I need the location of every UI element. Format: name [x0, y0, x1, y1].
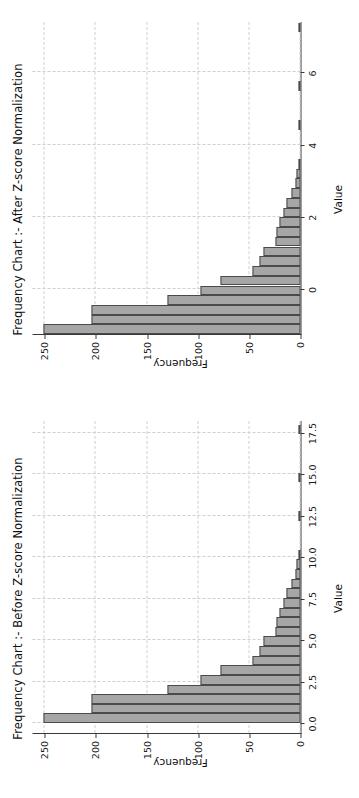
histogram-bar [200, 675, 300, 685]
x-tick-label: 2.5 [306, 675, 317, 690]
histogram-bar [286, 198, 300, 208]
y-tick-mark [300, 335, 301, 339]
bars-before [32, 421, 300, 733]
histogram-bar [43, 324, 300, 334]
y-tick-mark [249, 734, 250, 738]
x-tick-label: 7.5 [306, 592, 317, 607]
x-tick-mark [300, 474, 304, 475]
y-tick-label: 0 [295, 342, 306, 399]
histogram-bar [279, 217, 300, 227]
figure-canvas: Frequency Chart :- Before Z-score Normal… [0, 0, 359, 798]
y-tick-mark [95, 335, 96, 339]
histogram-bar [220, 665, 300, 675]
chart-panel-before: Frequency Chart :- Before Z-score Normal… [0, 399, 359, 798]
x-tick-mark [300, 145, 304, 146]
x-tick-mark [300, 516, 304, 517]
histogram-bar [296, 559, 300, 569]
y-tick-label: 150 [141, 741, 152, 798]
x-tick-label: 10.0 [306, 548, 317, 569]
chart-title-after: Frequency Chart :- After Z-score Normali… [10, 0, 24, 399]
y-tick-mark [249, 335, 250, 339]
y-tick-label: 100 [192, 342, 203, 399]
y-tick-label: 100 [192, 741, 203, 798]
histogram-bar [283, 208, 300, 218]
histogram-bar [220, 276, 300, 286]
histogram-bar [298, 81, 300, 91]
x-tick-mark [300, 289, 304, 290]
histogram-bar [286, 588, 300, 598]
chart-title-before: Frequency Chart :- Before Z-score Normal… [10, 399, 24, 798]
y-tick-mark [198, 335, 199, 339]
x-tick-label: 4 [306, 143, 317, 149]
x-tick-mark [300, 217, 304, 218]
x-tick-mark [300, 640, 304, 641]
histogram-bar [91, 704, 300, 714]
histogram-bar [91, 315, 300, 325]
bars-after [32, 22, 300, 334]
histogram-bar [252, 266, 300, 276]
histogram-bar [263, 247, 300, 257]
x-tick-label: 12.5 [306, 506, 317, 527]
histogram-bar [279, 608, 300, 618]
x-tick-label: 6 [306, 70, 317, 76]
histogram-bar [296, 169, 300, 179]
histogram-bar [283, 598, 300, 608]
histogram-bar [295, 178, 300, 188]
histogram-bar [43, 713, 300, 723]
x-tick-mark [300, 433, 304, 434]
histogram-bar [298, 159, 300, 169]
x-tick-label: 0.0 [306, 716, 317, 731]
histogram-bar [291, 188, 300, 198]
x-tick-mark [300, 599, 304, 600]
x-tick-mark [300, 723, 304, 724]
histogram-bar [291, 579, 300, 589]
x-tick-label: 15.0 [306, 465, 317, 486]
x-tick-label: 5.0 [306, 634, 317, 649]
x-tick-label: 0 [306, 287, 317, 293]
histogram-bar [275, 627, 300, 637]
y-tick-mark [147, 734, 148, 738]
x-tick-mark [300, 682, 304, 683]
y-tick-label: 50 [243, 342, 254, 399]
histogram-bar [263, 636, 300, 646]
histogram-bar [167, 685, 300, 695]
histogram-bar [200, 286, 300, 296]
x-tick-label: 2 [306, 215, 317, 221]
histogram-bar [91, 694, 300, 704]
histogram-bar [259, 256, 300, 266]
histogram-bar [295, 569, 300, 579]
histogram-bar [276, 617, 300, 627]
y-tick-mark [95, 734, 96, 738]
screenshot-frame: Frequency Chart :- Before Z-score Normal… [0, 0, 359, 798]
chart-panel-after: Frequency Chart :- After Z-score Normali… [0, 0, 359, 399]
histogram-bar [276, 227, 300, 237]
histogram-bar [298, 120, 300, 130]
y-tick-mark [300, 734, 301, 738]
y-axis-title-after: Frequency [152, 358, 206, 370]
x-tick-mark [300, 73, 304, 74]
plot-area-after [32, 22, 301, 335]
y-tick-mark [147, 335, 148, 339]
histogram-bar [252, 656, 300, 666]
histogram-bar [91, 305, 300, 315]
y-tick-label: 150 [141, 342, 152, 399]
histogram-bar [167, 295, 300, 305]
y-tick-label: 200 [90, 342, 101, 399]
x-tick-label: 17.5 [306, 423, 317, 444]
y-tick-mark [44, 734, 45, 738]
y-tick-label: 250 [39, 342, 50, 399]
histogram-bar [275, 237, 300, 247]
y-tick-mark [44, 335, 45, 339]
x-axis-title-after: Value [331, 0, 343, 399]
x-axis-title-before: Value [331, 399, 343, 798]
y-tick-label: 50 [243, 741, 254, 798]
y-tick-mark [198, 734, 199, 738]
y-tick-label: 250 [39, 741, 50, 798]
x-tick-mark [300, 557, 304, 558]
y-axis-title-before: Frequency [152, 757, 206, 769]
histogram-bar [259, 646, 300, 656]
plot-area-before [32, 421, 301, 734]
histogram-bar [298, 23, 300, 33]
y-tick-label: 200 [90, 741, 101, 798]
y-tick-label: 0 [295, 741, 306, 798]
